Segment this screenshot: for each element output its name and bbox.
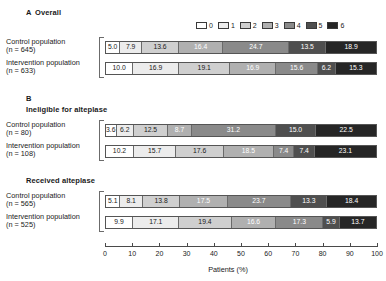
bar-c-control: 5.18.113.817.523.713.318.4 [105, 195, 377, 208]
axis-tick [241, 243, 242, 247]
bar-segment: 9.9 [106, 217, 133, 228]
legend-swatch-6 [327, 22, 338, 29]
bar-segment: 15.7 [134, 146, 176, 157]
legend-swatch-5 [306, 22, 317, 29]
axis-tick [105, 243, 106, 247]
bar-segment: 5.1 [106, 196, 120, 207]
row-n: (n = 645) [6, 46, 65, 54]
axis-tick [214, 243, 215, 247]
bar-segment: 7.4 [274, 146, 295, 157]
row-label-c-intervention: Intervention population (n = 525) [6, 213, 80, 230]
legend-swatch-0 [196, 22, 207, 29]
bar-segment: 17.5 [180, 196, 227, 207]
bar-segment: 23.7 [228, 196, 292, 207]
bar-segment: 18.5 [224, 146, 274, 157]
bar-segment: 22.5 [316, 125, 376, 136]
legend-label-5: 5 [319, 22, 323, 29]
row-label-a-control: Control population (n = 645) [6, 38, 65, 55]
panel-a-heading: AOverall [26, 8, 61, 17]
axis-tick [132, 243, 133, 247]
bar-b-intervention: 10.215.717.618.57.47.423.1 [105, 145, 377, 158]
row-label-c-control: Control population (n = 565) [6, 192, 65, 209]
axis-tick-label: 90 [346, 250, 354, 257]
axis-tick-label: 30 [183, 250, 191, 257]
axis-tick-label: 20 [155, 250, 163, 257]
legend-label-4: 4 [297, 22, 301, 29]
bar-segment: 18.9 [326, 42, 376, 53]
bar-b-control: 3.66.212.58.731.215.022.5 [105, 124, 377, 137]
panel-b-letter-heading: B [26, 94, 32, 103]
bar-segment: 16.9 [230, 63, 276, 74]
row-label-a-intervention: Intervention population (n = 633) [6, 59, 80, 76]
bar-segment: 13.3 [291, 196, 327, 207]
legend-item-1: 1 [218, 22, 235, 29]
axis-tick-label: 70 [291, 250, 299, 257]
axis-tick-label: 80 [319, 250, 327, 257]
bar-segment: 6.2 [117, 125, 134, 136]
panel-c-bracket [99, 191, 104, 232]
legend-item-3: 3 [262, 22, 279, 29]
panel-a-letter: A [26, 8, 35, 17]
bar-segment: 7.9 [120, 42, 142, 53]
axis-tick-label: 40 [210, 250, 218, 257]
bar-segment: 15.0 [276, 125, 317, 136]
bar-a-control: 5.07.913.616.424.713.518.9 [105, 41, 377, 54]
bar-segment: 10.2 [106, 146, 134, 157]
axis-tick-label: 60 [264, 250, 272, 257]
bar-segment: 12.5 [134, 125, 168, 136]
legend-label-6: 6 [340, 22, 344, 29]
legend-swatch-3 [262, 22, 273, 29]
bar-a-intervention: 10.016.919.116.915.66.215.3 [105, 62, 377, 75]
legend-label-3: 3 [275, 22, 279, 29]
bar-segment: 13.7 [340, 217, 376, 228]
axis-tick-label: 100 [371, 250, 383, 257]
axis-tick-label: 10 [128, 250, 136, 257]
panel-b-title: Ineligible for alteplase [26, 105, 107, 114]
x-axis-title: Patients (%) [0, 265, 386, 274]
bar-segment: 17.1 [133, 217, 179, 228]
bar-segment: 15.3 [336, 63, 376, 74]
panel-c-title-heading: Received alteplase [26, 176, 95, 185]
legend-swatch-4 [284, 22, 295, 29]
panel-b-bracket [99, 120, 104, 161]
row-label-b-control: Control population (n = 80) [6, 121, 65, 138]
legend-swatch-1 [218, 22, 229, 29]
row-n: (n = 108) [6, 150, 80, 158]
bar-segment: 24.7 [223, 42, 289, 53]
legend-label-1: 1 [231, 22, 235, 29]
bar-segment: 3.6 [106, 125, 117, 136]
legend-item-2: 2 [240, 22, 257, 29]
legend: 0 1 2 3 4 5 6 [196, 22, 344, 29]
bar-segment: 5.0 [106, 42, 120, 53]
axis-tick [323, 243, 324, 247]
bar-segment: 13.5 [289, 42, 326, 53]
bar-segment: 16.6 [232, 217, 277, 228]
bar-segment: 8.1 [120, 196, 142, 207]
legend-item-4: 4 [284, 22, 301, 29]
bar-segment: 16.4 [179, 42, 223, 53]
x-axis: 0102030405060708090100 [105, 246, 377, 247]
legend-label-0: 0 [209, 22, 213, 29]
panel-b-title-heading: Ineligible for alteplase [26, 105, 107, 114]
bar-segment: 13.8 [143, 196, 180, 207]
bar-segment: 13.6 [142, 42, 179, 53]
bar-c-intervention: 9.917.119.416.617.35.913.7 [105, 216, 377, 229]
legend-item-5: 5 [306, 22, 323, 29]
axis-tick-label: 0 [103, 250, 107, 257]
panel-b-letter: B [26, 94, 32, 103]
legend-item-0: 0 [196, 22, 213, 29]
bar-segment: 5.9 [323, 217, 340, 228]
axis-tick [187, 243, 188, 247]
row-n: (n = 565) [6, 200, 65, 208]
bar-segment: 7.4 [294, 146, 315, 157]
bar-segment: 17.3 [276, 217, 323, 228]
bar-segment: 18.4 [327, 196, 376, 207]
panel-a-title: Overall [35, 8, 61, 17]
row-label-b-intervention: Intervention population (n = 108) [6, 142, 80, 159]
axis-tick [159, 243, 160, 247]
bar-segment: 19.1 [179, 63, 230, 74]
panel-c-title: Received alteplase [26, 176, 95, 185]
chart-figure: AOverall 0 1 2 3 4 5 6 [0, 0, 386, 281]
row-n: (n = 525) [6, 221, 80, 229]
axis-tick [350, 243, 351, 247]
